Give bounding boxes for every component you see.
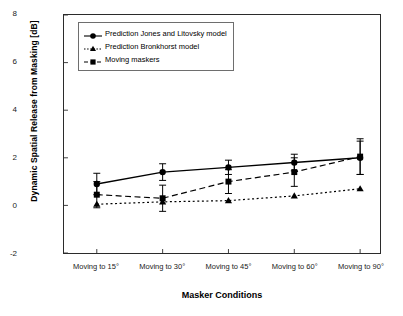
legend-label-moving-maskers: Moving maskers [103,55,160,64]
y-tick-label-6: 6 [0,57,17,66]
y-axis-label: Dynamic Spatial Release from Masking [dB… [29,0,39,241]
y-tick-label-8: 8 [0,9,17,18]
x-tick-label-5: Moving to 90° [318,262,403,271]
legend-item-moving-maskers: Moving maskers [83,53,227,66]
y-tick-label-2: 2 [0,153,17,162]
y-tick-label-4: 4 [0,105,17,114]
legend-label-bronkhorst: Prediction Bronkhorst model [103,42,199,51]
x-axis-label: Masker Conditions [63,290,381,300]
y-tick-label-0: 0 [0,201,17,210]
legend-item-jones-litovsky: Prediction Jones and Litovsky model [83,27,227,40]
y-tick-label-minus2: -2 [0,249,17,258]
triangle-marker-icon [83,41,103,53]
legend-label-jones-litovsky: Prediction Jones and Litovsky model [103,29,227,38]
square-marker-icon [83,54,103,66]
chart-container: Dynamic Spatial Release from Masking [dB… [0,0,403,316]
chart-legend: Prediction Jones and Litovsky model Pred… [78,22,234,71]
circle-marker-icon [83,28,103,40]
legend-item-bronkhorst: Prediction Bronkhorst model [83,40,227,53]
